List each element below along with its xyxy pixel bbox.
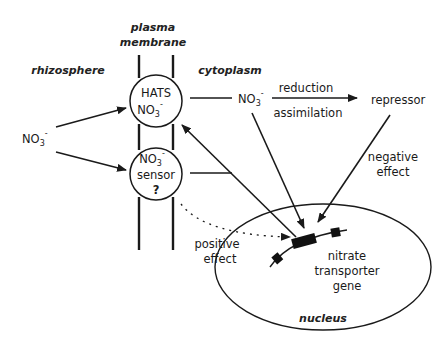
negative-effect-label-line2: effect (377, 165, 410, 179)
positive-effect-arrow (181, 204, 290, 237)
hats-transporter: HATS NO3- (130, 75, 182, 127)
cytoplasmic-nitrate-label: NO3- (238, 89, 264, 108)
hats-nitrate-label: NO3- (137, 100, 163, 119)
assimilation-label: assimilation (274, 106, 343, 120)
external-nitrate-label: NO3- (22, 129, 48, 148)
sensing-arrow (56, 152, 126, 170)
negative-effect-label-line1: negative (368, 150, 418, 164)
rhizosphere-label: rhizosphere (31, 64, 105, 77)
sensor-label: sensor (137, 168, 175, 182)
hats-label: HATS (141, 86, 171, 100)
positive-effect-label-line2: effect (204, 252, 237, 266)
repressor-label: repressor (371, 93, 425, 107)
nitrate-signaling-diagram: plasma membrane rhizosphere cytoplasm HA… (0, 0, 443, 349)
uptake-arrow (56, 108, 126, 127)
positive-effect-label-line1: positive (194, 237, 239, 251)
feedback-to-hats-arrow (182, 125, 296, 237)
faded-caption-strip (10, 330, 435, 336)
reduction-label: reduction (279, 81, 334, 95)
nitrate-to-gene-arrow (252, 113, 304, 228)
nitrate-sensor: NO3- sensor ? (130, 148, 182, 200)
gene-label-line1: nitrate (328, 249, 366, 263)
cytoplasm-label: cytoplasm (198, 64, 262, 77)
gene-label-line3: gene (333, 279, 362, 293)
plasma-membrane-label-line2: membrane (120, 36, 187, 49)
gene-label-line2: transporter (315, 264, 380, 278)
sensor-question-mark: ? (153, 183, 160, 197)
nucleus-label: nucleus (299, 312, 347, 325)
plasma-membrane-label-line1: plasma (130, 21, 176, 34)
sensor-nitrate-label: NO3- (139, 149, 165, 168)
